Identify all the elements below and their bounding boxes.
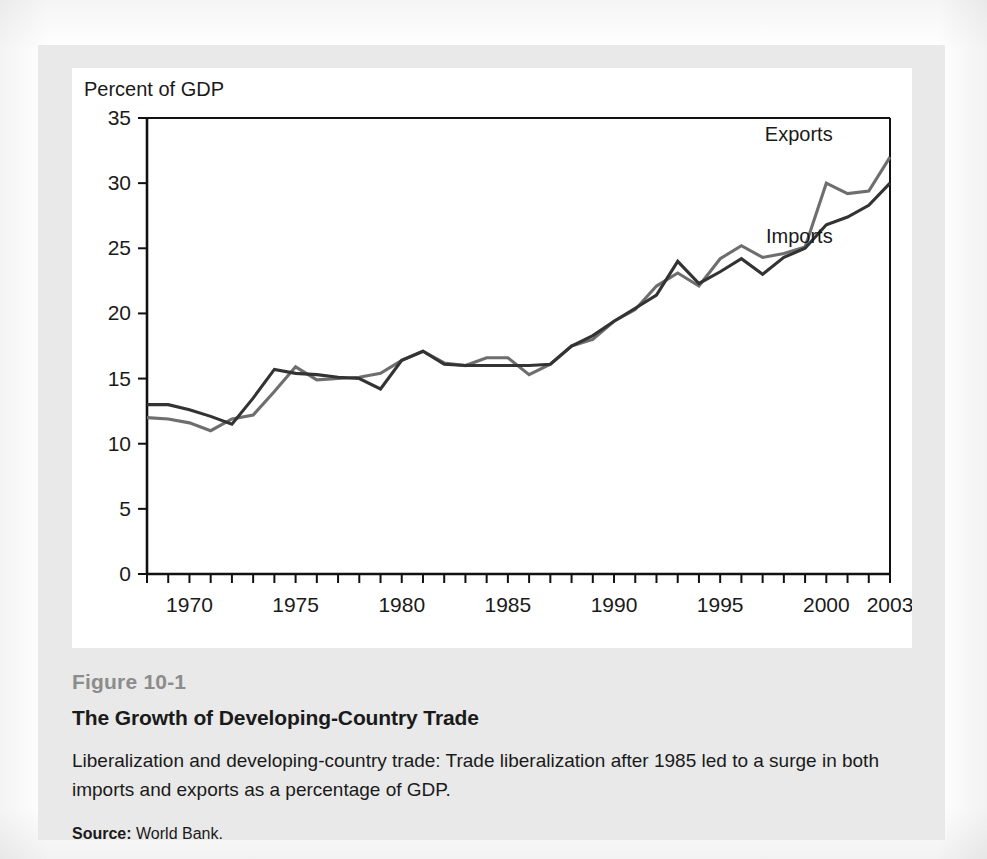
y-axis-title: Percent of GDP bbox=[84, 78, 224, 100]
x-axis-ticks: 19701975198019851990199520002003 bbox=[147, 574, 912, 616]
x-tick-label: 2000 bbox=[803, 593, 850, 616]
x-tick-label: 1990 bbox=[591, 593, 638, 616]
x-tick-label: 1985 bbox=[485, 593, 532, 616]
y-axis-title-group: Percent of GDP bbox=[84, 78, 224, 100]
y-tick-label: 25 bbox=[108, 236, 131, 259]
x-tick-label: 1970 bbox=[166, 593, 213, 616]
series-label-exports: Exports bbox=[765, 123, 833, 145]
source-text: World Bank. bbox=[136, 825, 223, 842]
chart-card: Percent of GDP 05101520253035 1970197519… bbox=[72, 68, 912, 648]
plot-frame bbox=[147, 118, 890, 574]
y-tick-label: 0 bbox=[119, 562, 131, 585]
y-tick-label: 5 bbox=[119, 497, 131, 520]
y-tick-label: 10 bbox=[108, 432, 131, 455]
figure-number: Figure 10-1 bbox=[72, 670, 932, 694]
y-tick-label: 20 bbox=[108, 301, 131, 324]
y-tick-label: 35 bbox=[108, 106, 131, 129]
y-tick-label: 15 bbox=[108, 367, 131, 390]
y-tick-label: 30 bbox=[108, 171, 131, 194]
series-annotations: ExportsImports bbox=[765, 123, 833, 247]
figure-source: Source: World Bank. bbox=[72, 825, 932, 843]
figure-description: Liberalization and developing-country tr… bbox=[72, 746, 912, 805]
source-label: Source: bbox=[72, 825, 132, 842]
series-line-imports bbox=[147, 183, 890, 424]
series-label-imports: Imports bbox=[766, 225, 833, 247]
y-axis-ticks: 05101520253035 bbox=[108, 106, 147, 585]
figure-panel: Percent of GDP 05101520253035 1970197519… bbox=[38, 45, 945, 840]
x-tick-label: 1980 bbox=[378, 593, 425, 616]
caption-block: Figure 10-1 The Growth of Developing-Cou… bbox=[72, 670, 932, 843]
figure-title: The Growth of Developing-Country Trade bbox=[72, 706, 932, 730]
x-tick-label: 1975 bbox=[272, 593, 319, 616]
series-lines bbox=[147, 157, 890, 431]
x-tick-label: 1995 bbox=[697, 593, 744, 616]
x-tick-label: 2003 bbox=[867, 593, 912, 616]
line-chart: Percent of GDP 05101520253035 1970197519… bbox=[72, 68, 912, 648]
